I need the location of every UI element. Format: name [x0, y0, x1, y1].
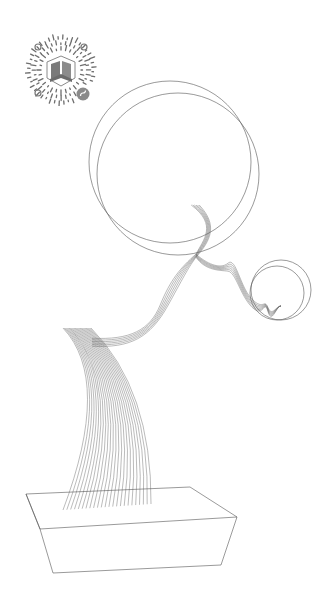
- mini-program-code[interactable]: [25, 34, 97, 106]
- building-book-logo-icon: [47, 56, 75, 86]
- mini-program-badge-icon: [77, 88, 90, 101]
- pot-box: [26, 487, 237, 573]
- trunk-strands: [63, 328, 151, 510]
- large-moon-circles: [89, 81, 259, 255]
